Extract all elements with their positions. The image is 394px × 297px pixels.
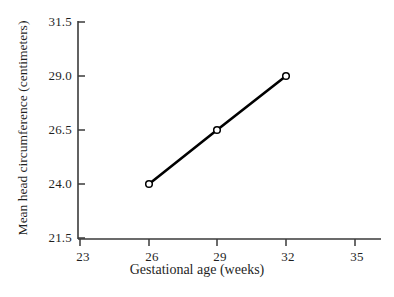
x-axis-label: Gestational age (weeks) [0, 262, 394, 278]
x-axis-ticks [80, 239, 355, 246]
plot-canvas [0, 0, 394, 297]
y-tick-label-24-0: 24.0 [28, 176, 72, 192]
chart-figure: 31.5 29.0 26.5 24.0 21.5 23 26 29 32 35 … [0, 0, 394, 297]
y-axis-ticks [78, 22, 85, 238]
y-axis-label: Mean head circumference (centimeters) [15, 21, 31, 236]
y-tick-label-21-5: 21.5 [28, 230, 72, 246]
y-tick-label-26-5: 26.5 [28, 122, 72, 138]
y-axis-label-container: Mean head circumference (centimeters) [12, 0, 34, 297]
data-point-32-29 [283, 73, 290, 80]
axis-lines [78, 21, 381, 239]
y-tick-label-31-5: 31.5 [28, 14, 72, 30]
data-point-29-26-5 [214, 127, 221, 134]
y-tick-label-29-0: 29.0 [28, 68, 72, 84]
data-point-26-24 [146, 181, 153, 188]
